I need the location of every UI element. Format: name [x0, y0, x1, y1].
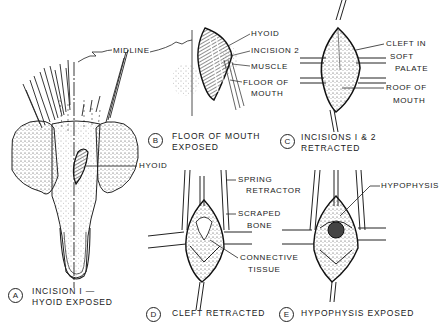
label-roof-2: MOUTH	[393, 96, 425, 106]
label-hyoid-b: HYOID	[251, 29, 279, 39]
panel-b-caption-line1: FLOOR OF MOUTH	[172, 131, 260, 142]
label-spring-2: RETRACTOR	[246, 186, 301, 196]
panel-e-caption: HYPOPHYSIS EXPOSED	[301, 308, 414, 319]
label-scraped-2: BONE	[247, 221, 272, 231]
label-hyoid-a: HYOID	[139, 161, 167, 171]
label-hypophysis: HYPOPHYSIS	[381, 181, 439, 191]
panel-b-drawing	[150, 28, 250, 116]
panel-e-marker: E	[279, 307, 294, 322]
label-floor-of-mouth-1: FLOOR OF	[243, 78, 289, 88]
panel-d-drawing	[148, 170, 252, 310]
panel-b-caption-line2: EXPOSED	[172, 142, 219, 153]
panel-b-marker: B	[148, 133, 163, 148]
surgical-diagram-drawing	[0, 0, 439, 324]
panel-c-marker: C	[280, 134, 295, 149]
label-connective-2: TISSUE	[248, 265, 281, 275]
panel-a-drawing	[12, 50, 138, 288]
panel-c-caption-line1: INCISIONS I & 2	[301, 132, 376, 143]
label-spring-1: SPRING	[238, 175, 272, 185]
label-incision-2: INCISION 2	[251, 46, 299, 56]
panel-a-marker: A	[8, 288, 23, 303]
label-connective-1: CONNECTIVE	[240, 253, 298, 263]
label-midline: MIDLINE	[113, 46, 150, 56]
panel-a-caption-line2: HYOID EXPOSED	[32, 297, 113, 308]
label-roof-1: ROOF OF	[386, 83, 427, 93]
panel-d-caption: CLEFT RETRACTED	[172, 308, 265, 319]
label-cleft-3: PALATE	[395, 64, 428, 74]
panel-d-marker: D	[146, 307, 161, 322]
label-cleft-1: CLEFT IN	[386, 39, 426, 49]
label-floor-of-mouth-2: MOUTH	[251, 89, 283, 99]
label-scraped-1: SCRAPED	[238, 209, 281, 219]
panel-a-caption-line1: INCISION I —	[32, 286, 95, 297]
panel-c-caption-line2: RETRACTED	[301, 143, 360, 154]
label-cleft-2: SOFT	[390, 52, 414, 62]
label-muscle: MUSCLE	[251, 62, 288, 72]
panel-c-drawing	[300, 0, 386, 132]
